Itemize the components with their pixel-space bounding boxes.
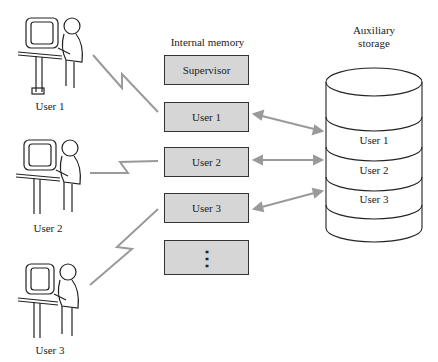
memory-block-user-2: User 2 <box>164 147 249 177</box>
auxiliary-storage-title-line1: Auxiliary <box>334 24 414 37</box>
comm-links <box>90 55 158 285</box>
terminal-user-2-icon <box>16 140 80 214</box>
auxiliary-storage-title-line2: storage <box>334 37 414 50</box>
auxiliary-storage-cylinder <box>326 68 422 242</box>
storage-section-user-1: User 1 <box>334 134 414 146</box>
link-user-1 <box>93 55 158 112</box>
link-user-3 <box>90 209 158 285</box>
memory-block-user-3: User 3 <box>164 193 249 223</box>
terminal-label-user-1: User 1 <box>20 100 80 112</box>
memory-block-more: ⋮ <box>164 240 249 275</box>
memory-block-user-1: User 1 <box>164 102 249 132</box>
terminal-user-1-icon <box>18 18 82 94</box>
swap-arrows <box>254 111 322 211</box>
memory-block-supervisor: Supervisor <box>164 55 249 85</box>
auxiliary-storage-title: Auxiliary storage <box>334 24 414 50</box>
terminal-label-user-2: User 2 <box>18 222 78 234</box>
storage-section-user-3: User 3 <box>334 193 414 205</box>
internal-memory-title: Internal memory <box>150 36 265 48</box>
storage-section-user-2: User 2 <box>334 164 414 176</box>
terminal-label-user-3: User 3 <box>20 344 80 356</box>
link-user-2 <box>90 161 158 173</box>
terminal-user-3-icon <box>18 264 78 338</box>
